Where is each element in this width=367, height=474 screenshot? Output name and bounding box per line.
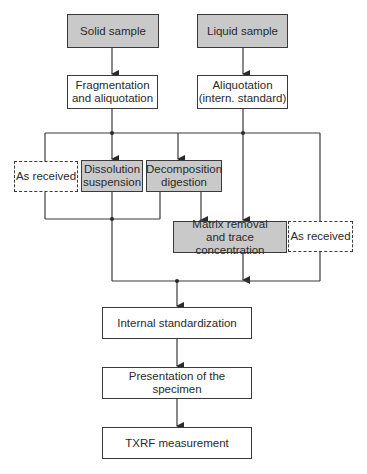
- node-decomposition: Decomposition digestion: [146, 160, 222, 192]
- flowchart-canvas: Solid sample Liquid sample Fragmentation…: [0, 0, 367, 474]
- junction-dot: [175, 279, 179, 283]
- node-label: Presentation of the specimen: [103, 370, 251, 396]
- node-label: As received: [290, 230, 350, 243]
- node-label: Internal standardization: [117, 317, 237, 330]
- node-label: Solid sample: [80, 25, 146, 38]
- node-label: Decomposition digestion: [146, 163, 222, 189]
- node-as-received-left: As received: [14, 161, 78, 192]
- node-dissolution: Dissolution suspension: [81, 160, 143, 192]
- node-internal-standardization: Internal standardization: [102, 307, 252, 339]
- node-liquid-sample: Liquid sample: [197, 14, 288, 48]
- node-fragmentation: Fragmentation and aliquotation: [67, 75, 158, 109]
- junction-dot: [110, 217, 114, 221]
- node-label: Liquid sample: [207, 25, 278, 38]
- node-label: Fragmentation and aliquotation: [72, 79, 153, 105]
- node-aliquotation: Aliquotation (intern. standard): [197, 75, 288, 109]
- node-label: Aliquotation (intern. standard): [199, 79, 287, 105]
- junction-dot: [110, 131, 114, 135]
- node-label: TXRF measurement: [125, 437, 229, 450]
- node-label: As received: [16, 170, 76, 183]
- node-presentation: Presentation of the specimen: [102, 367, 252, 399]
- node-matrix-removal: Matrix removal and trace concentration: [173, 221, 287, 253]
- node-txrf-measurement: TXRF measurement: [102, 427, 252, 459]
- node-as-received-right: As received: [288, 221, 353, 252]
- junction-dot: [241, 131, 245, 135]
- node-solid-sample: Solid sample: [67, 14, 159, 48]
- node-label: Matrix removal and trace concentration: [174, 218, 286, 257]
- node-label: Dissolution suspension: [83, 163, 141, 189]
